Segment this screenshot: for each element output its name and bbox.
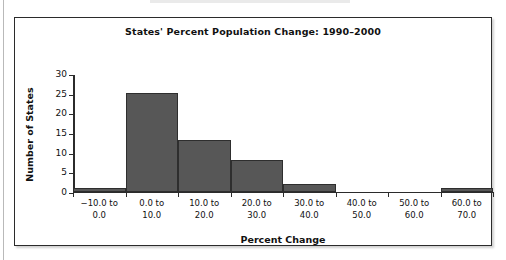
x-tick-label-line: 20.0 to [231, 198, 284, 210]
x-tick-label-line: 10.0 to [178, 198, 231, 210]
x-tick-mark [336, 192, 337, 197]
y-tick-mark [69, 173, 74, 174]
y-tick-label: 10 [56, 148, 67, 158]
y-tick-mark [69, 75, 74, 76]
x-tick-label: 40.0 to50.0 [336, 198, 389, 232]
x-tick-mark [178, 192, 179, 197]
x-tick-mark [126, 192, 127, 197]
y-axis-title: Number of States [21, 74, 37, 194]
bar [231, 160, 284, 191]
x-tick-mark [388, 192, 389, 197]
x-tick-label: 50.0 to60.0 [388, 198, 441, 232]
bar [178, 140, 231, 191]
bar [126, 93, 179, 191]
y-tick-label: 0 [61, 187, 67, 197]
x-tick-label-line: 30.0 to [283, 198, 336, 210]
x-tick-mark [283, 192, 284, 197]
x-tick-label-line: 0.0 [73, 210, 126, 222]
x-tick-label-line: 50.0 to [388, 198, 441, 210]
x-tick-label-line: −10.0 to [73, 198, 126, 210]
x-tick-label-line: 60.0 [388, 210, 441, 222]
x-axis-tick-labels: −10.0 to0.00.0 to10.010.0 to20.020.0 to3… [73, 198, 493, 232]
x-tick-label: 60.0 to70.0 [441, 198, 494, 232]
y-tick-label: 20 [56, 108, 67, 118]
y-tick-mark [69, 114, 74, 115]
x-tick-label: 20.0 to30.0 [231, 198, 284, 232]
chart-title: States' Percent Population Change: 1990–… [15, 26, 491, 37]
x-tick-label-line: 0.0 to [126, 198, 179, 210]
y-tick-mark [69, 134, 74, 135]
x-tick-mark [231, 192, 232, 197]
page-edge-line [3, 0, 4, 260]
bar [441, 188, 494, 192]
x-tick-mark [441, 192, 442, 197]
x-tick-label: 0.0 to10.0 [126, 198, 179, 232]
y-tick-mark [69, 95, 74, 96]
bar [283, 184, 336, 192]
x-tick-label-line: 70.0 [441, 210, 494, 222]
x-tick-label-line: 10.0 [126, 210, 179, 222]
plot-area: 051015202530 [73, 75, 493, 193]
x-tick-mark [493, 192, 494, 197]
x-tick-label-line: 50.0 [336, 210, 389, 222]
x-tick-label-line: 40.0 [283, 210, 336, 222]
y-tick-label: 25 [56, 89, 67, 99]
scan-artifact [150, 0, 350, 3]
y-tick-label: 5 [61, 167, 67, 177]
y-axis-title-text: Number of States [24, 87, 35, 181]
x-tick-label-line: 20.0 [178, 210, 231, 222]
x-tick-label: −10.0 to0.0 [73, 198, 126, 232]
x-tick-mark [73, 192, 74, 197]
x-tick-label-line: 60.0 to [441, 198, 494, 210]
x-tick-label: 10.0 to20.0 [178, 198, 231, 232]
x-tick-label-line: 30.0 [231, 210, 284, 222]
x-axis-title: Percent Change [73, 234, 493, 245]
y-tick-mark [69, 154, 74, 155]
y-tick-label: 30 [56, 69, 67, 79]
x-tick-label-line: 40.0 to [336, 198, 389, 210]
bar [73, 188, 126, 192]
chart-frame: States' Percent Population Change: 1990–… [14, 17, 492, 246]
y-tick-label: 15 [56, 128, 67, 138]
x-tick-label: 30.0 to40.0 [283, 198, 336, 232]
